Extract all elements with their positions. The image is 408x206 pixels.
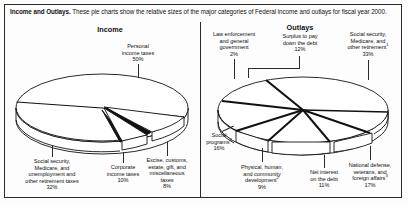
footnote-marker: 4 bbox=[229, 137, 231, 142]
label-line: development2 bbox=[226, 177, 298, 184]
leader-line-excise bbox=[167, 142, 168, 156]
label-line: Law enforcement bbox=[203, 31, 265, 38]
label-percent: 50% bbox=[103, 56, 173, 63]
label-line: Excise, customs, bbox=[136, 157, 198, 164]
leader-line-law-enforcement bbox=[234, 59, 235, 79]
label-line: other retirement1 bbox=[333, 44, 403, 51]
outlays-pie bbox=[218, 77, 389, 155]
label-percent: 12% bbox=[270, 46, 330, 53]
label-line: Corporate bbox=[96, 164, 150, 171]
outlays-label-social-security-medicare: Social security, Medicare, and other ret… bbox=[333, 31, 403, 57]
leader-line-physical-human-community bbox=[262, 148, 263, 162]
label-line: down the debt bbox=[270, 40, 330, 47]
income-label-social-security: Social security, Medicare, and unemploym… bbox=[8, 158, 96, 191]
label-percent: 17% bbox=[337, 182, 403, 189]
label-line-text: foreign affairs bbox=[352, 175, 385, 181]
label-line: programs4 bbox=[199, 139, 239, 146]
leader-line-social-security-outlays bbox=[368, 60, 369, 80]
income-label-corporate-income-taxes: Corporate income taxes 10% bbox=[96, 164, 150, 184]
label-percent: 2% bbox=[203, 51, 265, 58]
label-percent: 10% bbox=[96, 177, 150, 184]
outlays-label-law-enforcement: Law enforcement and general government 2… bbox=[203, 31, 265, 57]
label-line: other retirement taxes bbox=[8, 178, 96, 185]
leader-line-social-security-income bbox=[52, 146, 53, 157]
label-line: Medicare, and bbox=[8, 165, 96, 172]
leader-line-surplus bbox=[299, 56, 300, 68]
footnote-marker: 1 bbox=[386, 42, 388, 47]
outlays-label-national-defense: National defense, veterans, and foreign … bbox=[337, 162, 403, 188]
leader-line-net-interest bbox=[324, 155, 325, 168]
label-line: Social security, bbox=[8, 158, 96, 165]
leader-elbow-surplus bbox=[248, 68, 300, 69]
label-line: Physical, human, bbox=[226, 164, 298, 171]
income-and-outlays-figure: Income and Outlays. These pie charts sho… bbox=[0, 0, 408, 206]
label-percent: 16% bbox=[199, 145, 239, 152]
footnote-marker: 3 bbox=[385, 173, 387, 178]
label-percent: 33% bbox=[333, 51, 403, 58]
label-line: Personal bbox=[103, 43, 173, 50]
label-line: income taxes bbox=[103, 50, 173, 57]
label-line: Surplus to pay bbox=[270, 33, 330, 40]
label-line-text: other retirement bbox=[348, 44, 387, 50]
footnote-marker: 2 bbox=[277, 175, 279, 180]
income-label-personal-income-taxes: Personal income taxes 50% bbox=[103, 43, 173, 63]
label-line: National defense, bbox=[337, 162, 403, 169]
leader-line-personal-income-taxes bbox=[138, 64, 139, 78]
label-percent: 9% bbox=[226, 184, 298, 191]
outlays-label-physical-human-community: Physical, human, and community developme… bbox=[226, 164, 298, 190]
label-line-text: programs bbox=[206, 139, 229, 145]
label-line: foreign affairs3 bbox=[337, 175, 403, 182]
label-line: unemployment and bbox=[8, 171, 96, 178]
outlays-label-social-programs: Social programs4 16% bbox=[199, 132, 239, 152]
leader-drop-surplus bbox=[248, 68, 249, 78]
label-line-text: development bbox=[245, 177, 276, 183]
leader-line-corporate-income-taxes bbox=[123, 152, 124, 163]
label-line: income taxes bbox=[96, 171, 150, 178]
label-percent: 8% bbox=[136, 183, 198, 190]
label-line: government bbox=[203, 44, 265, 51]
leader-line-national-defense bbox=[370, 146, 371, 160]
label-percent: 32% bbox=[8, 184, 96, 191]
outlays-label-surplus: Surplus to pay down the debt 12% bbox=[270, 33, 330, 53]
label-line: Social bbox=[199, 132, 239, 139]
income-pie bbox=[16, 74, 188, 154]
label-line: Social security, bbox=[333, 31, 403, 38]
label-line: and general bbox=[203, 38, 265, 45]
